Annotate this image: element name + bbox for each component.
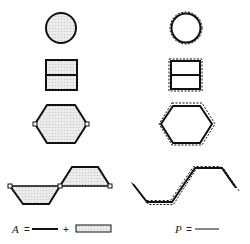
perimeter-wave xyxy=(132,167,240,205)
area-legend: A = + xyxy=(11,223,111,235)
perimeter-circle xyxy=(170,12,202,44)
area-wave xyxy=(8,167,112,204)
area-plus: + xyxy=(63,224,69,235)
area-split-square xyxy=(46,60,77,90)
area-equals: = xyxy=(24,224,30,235)
perimeter-symbol: P xyxy=(174,223,182,235)
perimeter-split-square xyxy=(169,59,202,91)
diagram-canvas: A = + P = xyxy=(0,0,250,244)
perimeter-equals: = xyxy=(186,224,192,235)
perimeter-legend: P = xyxy=(174,223,219,235)
area-circle xyxy=(46,13,76,43)
perimeter-hexagon xyxy=(159,103,215,145)
area-symbol: A xyxy=(11,223,19,235)
area-hexagon xyxy=(33,105,89,143)
